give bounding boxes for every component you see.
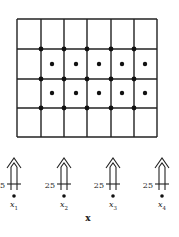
junction-dot	[109, 77, 114, 82]
sensor-point-label: x4	[158, 200, 167, 211]
cell-dot	[143, 62, 147, 66]
junction-dot	[132, 106, 137, 111]
junction-dot	[85, 106, 90, 111]
sensor-value-label: 25	[45, 181, 55, 190]
sensor-point-dot	[160, 194, 164, 198]
sensor-arrows: 25x125x225x325x4	[0, 158, 169, 211]
junction-dot	[109, 47, 114, 52]
sensor-point-label: x2	[60, 200, 68, 211]
sensor-value-label: 25	[94, 181, 104, 190]
sensor-1: 25x1	[0, 158, 21, 211]
sensor-point-dot	[12, 194, 16, 198]
double-up-arrow-icon	[155, 158, 169, 190]
sensor-point-dot	[111, 194, 115, 198]
junction-dot	[85, 77, 90, 82]
sensor-value-label: 25	[143, 181, 153, 190]
cell-dot	[50, 91, 54, 95]
junction-dot	[132, 77, 137, 82]
cell-dot	[74, 91, 78, 95]
junction-dot	[62, 106, 67, 111]
sensor-value-label: 25	[0, 181, 5, 190]
cell-dot	[74, 62, 78, 66]
junction-dot	[39, 77, 44, 82]
cell-dot	[120, 62, 124, 66]
axis-label: x	[85, 213, 91, 223]
sensor-point-dot	[62, 194, 66, 198]
double-up-arrow-icon	[106, 158, 120, 190]
cell-dot	[120, 91, 124, 95]
cell-dot	[143, 91, 147, 95]
grid-diagram: 25x125x225x325x4 x	[0, 0, 179, 237]
double-up-arrow-icon	[7, 158, 21, 190]
junction-dot	[62, 77, 67, 82]
junction-dot	[85, 47, 90, 52]
sensor-2: 25x2	[45, 158, 71, 211]
junction-dot	[132, 47, 137, 52]
cell-dot	[97, 91, 101, 95]
sensor-4: 25x4	[143, 158, 169, 211]
junction-dot	[109, 106, 114, 111]
junction-dot	[39, 47, 44, 52]
cell-dot	[50, 62, 54, 66]
cell-dot	[97, 62, 101, 66]
junction-dot	[39, 106, 44, 111]
double-up-arrow-icon	[57, 158, 71, 190]
sensor-point-label: x3	[109, 200, 118, 211]
junction-dot	[62, 47, 67, 52]
sensor-point-label: x1	[10, 200, 18, 211]
sensor-3: 25x3	[94, 158, 120, 211]
